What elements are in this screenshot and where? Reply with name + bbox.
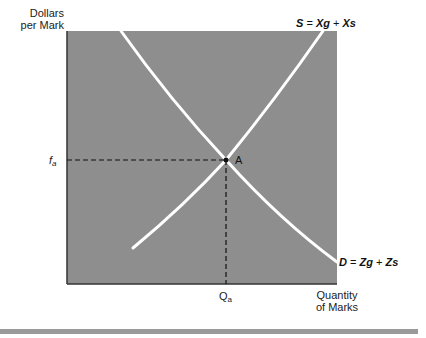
equilibrium-price-label: fa bbox=[49, 154, 57, 168]
x-axis-label: Quantity of Marks bbox=[307, 289, 367, 313]
equilibrium-quantity-label: Qa bbox=[219, 290, 232, 304]
bottom-rule-divider bbox=[0, 329, 418, 334]
equilibrium-point bbox=[224, 158, 229, 163]
supply-demand-diagram bbox=[0, 0, 426, 338]
supply-equation: S = Xg + Xs bbox=[296, 17, 356, 29]
demand-equation: D = Zg + Zs bbox=[339, 256, 398, 268]
y-axis-label: Dollars per Mark bbox=[16, 7, 64, 31]
equilibrium-point-label: A bbox=[235, 154, 242, 166]
